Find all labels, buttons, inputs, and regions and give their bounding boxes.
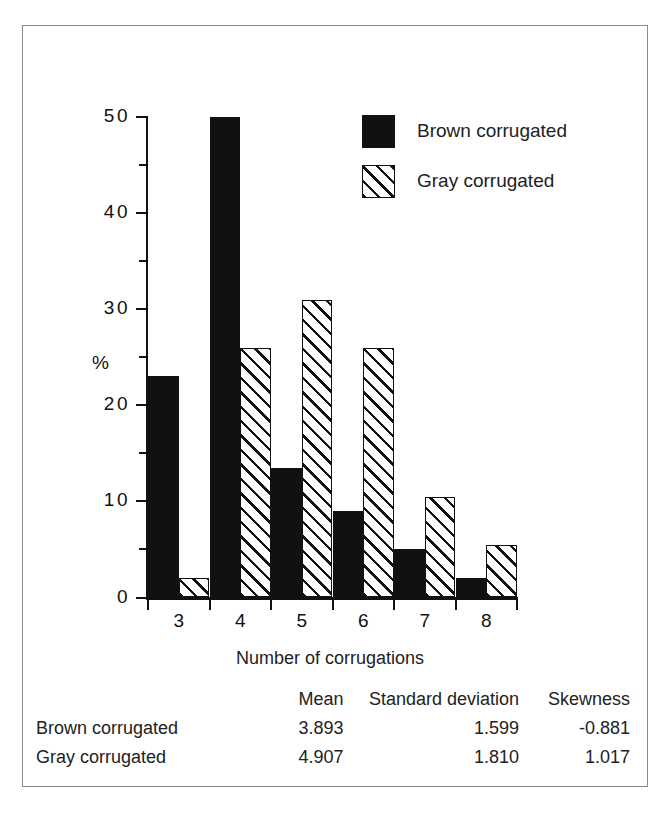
x-tick: [455, 599, 457, 610]
bar-gray-5: [302, 300, 333, 598]
y-tick-minor: [139, 260, 147, 262]
y-tick-label: 30: [90, 297, 130, 319]
row-standard-deviation: 1.810: [344, 739, 519, 768]
bar-gray-4: [240, 348, 271, 598]
bar-gray-3: [179, 578, 210, 597]
x-tick-label: 7: [405, 610, 445, 632]
y-tick-minor: [139, 164, 147, 166]
y-tick-major: [136, 404, 147, 406]
bar-brown-5: [271, 468, 302, 598]
row-label: Gray corrugated: [22, 739, 238, 768]
stats-table-body: Brown corrugated3.8931.599-0.881Gray cor…: [22, 710, 648, 768]
bar-brown-7: [394, 549, 425, 597]
bar-gray-6: [363, 348, 394, 598]
stats-header-skewness: Skewness: [519, 676, 648, 710]
stats-header-standard-deviation: Standard deviation: [344, 676, 519, 710]
stats-table-row: Gray corrugated4.9071.8101.017: [22, 739, 648, 768]
bar-brown-6: [333, 511, 364, 597]
y-tick-label: 50: [90, 105, 130, 127]
row-skewness: 1.017: [519, 739, 648, 768]
x-tick-label: 8: [466, 610, 506, 632]
stats-header-blank: [22, 676, 238, 710]
x-tick: [270, 599, 272, 610]
y-tick-major: [136, 597, 147, 599]
x-tick: [147, 599, 149, 610]
y-tick-major: [136, 116, 147, 118]
x-axis-title-text: Number of corrugations: [236, 648, 424, 668]
stats-header-mean: Mean: [238, 676, 344, 710]
legend-swatch-solid-icon: [362, 115, 395, 148]
chart-legend: Brown corrugatedGray corrugated: [362, 106, 567, 206]
y-tick-major: [136, 500, 147, 502]
y-tick-minor: [139, 452, 147, 454]
row-standard-deviation: 1.599: [344, 710, 519, 739]
stats-table-head: Mean Standard deviation Skewness: [22, 676, 648, 710]
y-tick-label: 20: [90, 393, 130, 415]
y-tick-minor: [139, 356, 147, 358]
x-tick: [393, 599, 395, 610]
x-tick: [332, 599, 334, 610]
y-tick-label: 0: [90, 586, 130, 608]
legend-item: Gray corrugated: [362, 156, 567, 206]
x-tick: [516, 599, 518, 610]
bar-gray-7: [425, 497, 456, 598]
bar-brown-3: [148, 376, 179, 597]
row-skewness: -0.881: [519, 710, 648, 739]
y-tick-major: [136, 308, 147, 310]
y-tick-major: [136, 212, 147, 214]
legend-label: Brown corrugated: [417, 120, 567, 142]
row-mean: 4.907: [238, 739, 344, 768]
x-tick-label: 6: [343, 610, 383, 632]
legend-label: Gray corrugated: [417, 170, 554, 192]
statistics-table: Mean Standard deviation Skewness Brown c…: [22, 676, 648, 768]
y-tick-minor: [139, 548, 147, 550]
row-mean: 3.893: [238, 710, 344, 739]
x-tick-label: 5: [282, 610, 322, 632]
x-tick-label: 3: [159, 610, 199, 632]
x-tick: [209, 599, 211, 610]
bar-brown-4: [210, 117, 241, 598]
x-axis-title: Number of corrugations: [0, 648, 664, 669]
legend-swatch-hatched-icon: [362, 165, 395, 198]
x-tick-label: 4: [220, 610, 260, 632]
y-tick-label: 10: [90, 489, 130, 511]
stats-table-element: Mean Standard deviation Skewness Brown c…: [22, 676, 648, 768]
y-axis-title: %: [92, 352, 109, 374]
stats-header-row: Mean Standard deviation Skewness: [22, 676, 648, 710]
y-tick-label: 40: [90, 201, 130, 223]
legend-item: Brown corrugated: [362, 106, 567, 156]
bar-brown-8: [456, 578, 487, 597]
row-label: Brown corrugated: [22, 710, 238, 739]
bar-gray-8: [486, 545, 517, 598]
stats-table-row: Brown corrugated3.8931.599-0.881: [22, 710, 648, 739]
